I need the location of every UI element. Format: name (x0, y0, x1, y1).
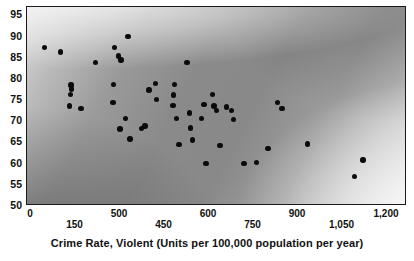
data-point (201, 102, 206, 107)
data-point (127, 136, 132, 141)
y-axis-tick-label: 65 (2, 136, 22, 147)
data-point (153, 81, 158, 86)
plot-area (26, 6, 406, 205)
x-axis-tick-label: 450 (155, 220, 172, 230)
data-point (352, 174, 357, 179)
data-point (125, 34, 130, 39)
data-point (67, 103, 72, 108)
x-axis-tick-label: 900 (289, 209, 306, 219)
data-point (279, 106, 284, 111)
data-point (176, 142, 181, 147)
data-point (184, 60, 189, 65)
y-axis-tick-label: 70 (2, 115, 22, 126)
data-point (123, 116, 128, 121)
scatter-plot-figure: 95908580757065605550 0150500450600750900… (0, 0, 414, 261)
x-axis-tick-label: 750 (244, 220, 261, 230)
x-axis-tick-label: 600 (200, 209, 217, 219)
data-point (229, 108, 234, 113)
data-point (58, 49, 63, 54)
data-point (171, 92, 176, 97)
data-point (241, 161, 246, 166)
data-point (199, 116, 204, 121)
y-axis-tick-label: 80 (2, 73, 22, 84)
data-point (190, 137, 195, 142)
y-axis-tick-label: 95 (2, 9, 22, 20)
data-point (118, 57, 123, 62)
x-axis-tick-label: 500 (111, 209, 128, 219)
y-axis-tick-label: 55 (2, 179, 22, 190)
data-point (360, 157, 365, 162)
data-point (170, 103, 175, 108)
data-point (110, 100, 115, 105)
data-point (112, 45, 117, 50)
data-point (174, 116, 179, 121)
data-point (203, 161, 208, 166)
data-point (210, 92, 215, 97)
x-axis-title: Crime Rate, Violent (Units per 100,000 p… (0, 237, 414, 249)
x-axis-tick-label: 150 (66, 220, 83, 230)
data-point (214, 108, 219, 113)
data-point (142, 123, 147, 128)
x-axis-tick-label: 1,050 (329, 220, 354, 230)
data-point (254, 160, 259, 165)
data-point (231, 117, 236, 122)
data-point (117, 126, 122, 131)
y-axis-tick-label: 90 (2, 30, 22, 41)
y-axis-tick-label: 75 (2, 94, 22, 105)
y-axis-tick-label: 50 (2, 200, 22, 211)
data-point (265, 146, 270, 151)
data-point (93, 60, 98, 65)
y-axis-tick-label: 60 (2, 157, 22, 168)
data-point (42, 45, 47, 50)
data-point (146, 87, 151, 92)
y-axis-tick-label: 85 (2, 52, 22, 63)
x-axis-tick-label: 0 (27, 209, 33, 219)
data-point (78, 106, 83, 111)
x-axis-tick-label: 1,200 (373, 209, 398, 219)
data-point (187, 110, 192, 115)
data-point (68, 92, 73, 97)
data-point (188, 125, 193, 130)
data-point (154, 97, 159, 102)
data-point (111, 82, 116, 87)
data-point (305, 141, 310, 146)
data-point (217, 143, 222, 148)
data-point (275, 100, 280, 105)
data-point (172, 82, 177, 87)
